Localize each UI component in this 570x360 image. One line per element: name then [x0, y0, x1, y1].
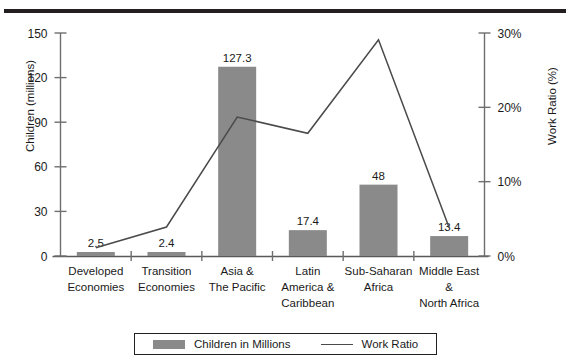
legend-item-children: Children in Millions [135, 338, 291, 350]
legend-bar-swatch-icon [153, 340, 185, 349]
chart-plot-area: 03060901201500%10%20%30%2.52.4127.317.44… [0, 0, 570, 360]
y-axis-left-tick-label: 90 [34, 116, 48, 130]
x-axis-category-label: Asia &The Pacific [209, 265, 266, 293]
y-axis-right-tick-label: 10% [498, 175, 522, 189]
y-axis-left-tick-label: 150 [27, 27, 47, 41]
bar-4 [360, 185, 398, 256]
bar-0 [77, 252, 115, 256]
y-axis-right-tick-label: 20% [498, 101, 522, 115]
bar-2 [218, 67, 256, 256]
x-axis-category-label: Middle East&North Africa [419, 265, 480, 309]
legend-label-work-ratio: Work Ratio [362, 338, 419, 350]
bar-1 [148, 252, 186, 256]
y-axis-right-tick-label: 30% [498, 27, 522, 41]
y-axis-left-tick-label: 120 [27, 71, 47, 85]
bar-3 [289, 230, 327, 256]
y-axis-right-tick-label: 0% [498, 250, 516, 264]
chart-figure: Children (millions) Work Ratio (%) 03060… [0, 0, 570, 360]
bar-value-label: 127.3 [223, 52, 252, 64]
y-axis-left-tick-label: 30 [34, 205, 48, 219]
bar-value-label: 48 [372, 170, 385, 182]
bar-5 [430, 236, 468, 256]
legend-label-children: Children in Millions [194, 338, 291, 350]
x-axis-category-label: DevelopedEconomies [67, 265, 124, 293]
y-axis-left-tick-label: 60 [34, 160, 48, 174]
bar-value-label: 17.4 [297, 215, 320, 227]
legend-line-swatch-icon [321, 344, 353, 345]
bar-value-label: 2.4 [159, 237, 176, 249]
y-axis-left-tick-label: 0 [41, 250, 48, 264]
chart-legend: Children in Millions Work Ratio [134, 333, 437, 355]
x-axis-category-label: LatinAmerica &Caribbean [281, 265, 334, 309]
x-axis-category-label: TransitionEconomies [138, 265, 195, 293]
x-axis-category-label: Sub-SaharanAfrica [345, 265, 413, 293]
legend-item-work-ratio: Work Ratio [291, 338, 419, 350]
